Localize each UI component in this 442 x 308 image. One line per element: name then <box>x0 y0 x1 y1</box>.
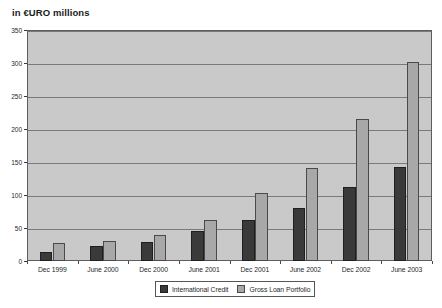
x-axis-tick-label: June 2002 <box>290 266 321 273</box>
bar-1[interactable] <box>255 193 268 261</box>
y-axis-tick-label: 250 <box>11 93 22 100</box>
bar-group <box>27 30 78 261</box>
y-axis-tick-label: 200 <box>11 126 22 133</box>
bar-0[interactable] <box>343 187 356 261</box>
x-axis-tick-mark <box>179 261 180 264</box>
bar-1[interactable] <box>407 62 420 261</box>
bar-group <box>381 30 432 261</box>
bar-1[interactable] <box>53 243 66 261</box>
bar-group <box>128 30 179 261</box>
x-axis-tick-mark <box>280 261 281 264</box>
x-axis-tick-mark <box>230 261 231 264</box>
bar-1[interactable] <box>103 241 116 261</box>
bar-1[interactable] <box>306 168 319 261</box>
x-axis-tick-label: June 2000 <box>87 266 118 273</box>
bar-0[interactable] <box>191 231 204 261</box>
y-axis-tick-label: 0 <box>18 258 22 265</box>
bar-0[interactable] <box>141 242 154 261</box>
bar-0[interactable] <box>293 208 306 261</box>
chart-legend: International CreditGross Loan Portfolio <box>155 281 315 297</box>
bar-0[interactable] <box>242 220 255 261</box>
x-axis-tick-mark <box>331 261 332 264</box>
x-axis-tick-mark <box>381 261 382 264</box>
chart-title: in €URO millions <box>12 7 90 18</box>
x-axis-tick-label: Dec 1999 <box>38 266 67 273</box>
bar-0[interactable] <box>40 252 53 261</box>
bar-group <box>280 30 331 261</box>
x-axis-tick-label: Dec 2002 <box>342 266 371 273</box>
legend-label: International Credit <box>172 286 228 293</box>
x-axis-tick-mark <box>128 261 129 264</box>
x-axis-tick-label: Dec 2000 <box>139 266 168 273</box>
bar-group <box>230 30 281 261</box>
x-axis-tick-label: June 2003 <box>391 266 422 273</box>
y-axis-tick-label: 350 <box>11 27 22 34</box>
y-axis-tick-label: 300 <box>11 60 22 67</box>
bar-1[interactable] <box>204 220 217 261</box>
legend-swatch-icon <box>160 285 168 293</box>
bar-1[interactable] <box>154 235 167 261</box>
legend-swatch-icon <box>237 285 245 293</box>
bar-group <box>179 30 230 261</box>
x-axis-tick-mark <box>27 261 28 264</box>
bar-group <box>78 30 129 261</box>
y-axis: 050100150200250300350 <box>0 24 27 267</box>
bar-1[interactable] <box>356 119 369 261</box>
x-axis-tick-label: June 2001 <box>189 266 220 273</box>
bar-0[interactable] <box>394 167 407 261</box>
x-axis-tick-label: Dec 2001 <box>240 266 269 273</box>
x-axis-tick-mark <box>78 261 79 264</box>
bar-group <box>331 30 382 261</box>
bars-layer <box>27 30 432 261</box>
bar-0[interactable] <box>90 246 103 261</box>
chart-container: in €URO millions 050100150200250300350 D… <box>0 0 442 308</box>
y-axis-tick-label: 150 <box>11 159 22 166</box>
x-axis: Dec 1999June 2000Dec 2000June 2001Dec 20… <box>27 261 432 281</box>
y-axis-tick-label: 100 <box>11 192 22 199</box>
y-axis-tick-label: 50 <box>15 225 22 232</box>
x-axis-tick-mark <box>432 261 433 264</box>
legend-entry[interactable]: International Credit <box>160 285 228 293</box>
legend-entry[interactable]: Gross Loan Portfolio <box>237 285 310 293</box>
legend-label: Gross Loan Portfolio <box>249 286 310 293</box>
